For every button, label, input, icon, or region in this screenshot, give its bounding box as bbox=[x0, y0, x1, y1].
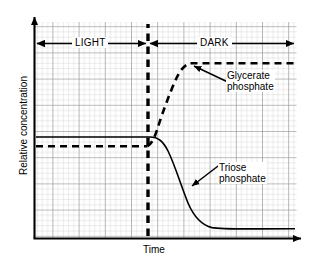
series-label-glycerate-phosphate-line2: phosphate bbox=[227, 81, 274, 92]
series-label-triose-phosphate-line1: Triose bbox=[219, 162, 266, 173]
series-label-glycerate-phosphate-line1: Glycerate bbox=[227, 70, 274, 81]
chart-canvas bbox=[0, 0, 321, 266]
series-label-glycerate-phosphate: Glycerate phosphate bbox=[226, 70, 275, 92]
series-label-triose-phosphate-line2: phosphate bbox=[219, 173, 266, 184]
phase-label-dark: DARK bbox=[197, 37, 232, 48]
grid-area bbox=[35, 22, 297, 238]
series-label-triose-phosphate: Triose phosphate bbox=[218, 162, 267, 184]
chart-figure: LIGHT DARK Glycerate phosphate Triose ph… bbox=[0, 0, 321, 266]
x-axis-label: Time bbox=[143, 244, 165, 255]
phase-label-light: LIGHT bbox=[72, 37, 108, 48]
y-axis-label: Relative concentration bbox=[18, 61, 29, 191]
